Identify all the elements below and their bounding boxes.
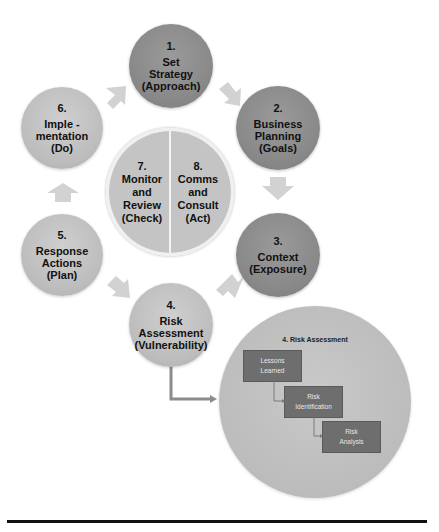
bottom-rule bbox=[7, 520, 427, 523]
step-label-line: (Plan) bbox=[36, 269, 89, 281]
step-label-line: Context bbox=[249, 251, 306, 263]
step-label-line: Monitor bbox=[122, 173, 162, 186]
step-label-line: Imple - bbox=[36, 118, 89, 130]
arrow-icon bbox=[47, 183, 79, 202]
step-label-line: Planning bbox=[254, 130, 303, 142]
step-label-line: (Act) bbox=[185, 212, 210, 225]
connector-arrowhead-icon bbox=[282, 399, 285, 403]
step-number: 5. bbox=[36, 229, 89, 241]
step-6-implementation: 6. Imple - mentation (Do) bbox=[21, 87, 103, 169]
step-label-line: Risk bbox=[135, 315, 208, 327]
arrow-icon bbox=[106, 86, 126, 109]
step-label-line: (Exposure) bbox=[249, 263, 306, 275]
step-label-line: Set bbox=[142, 56, 201, 68]
connector-arrowhead-icon bbox=[320, 434, 323, 438]
step-2-business-planning: 2. Business Planning (Goals) bbox=[236, 86, 320, 170]
arrow-icon bbox=[219, 82, 241, 106]
step-label-line: Consult bbox=[178, 199, 219, 212]
step-label-line: (Vulnerability) bbox=[135, 339, 208, 351]
connector-arrow bbox=[171, 364, 210, 399]
step-label-line: (Approach) bbox=[142, 80, 201, 92]
center-circle: 7. Monitor and Review (Check) 8. Comms a… bbox=[106, 128, 234, 256]
step-number: 2. bbox=[254, 102, 303, 114]
step-number: 6. bbox=[36, 102, 89, 114]
step-4-risk-assessment: 4. Risk Assessment (Vulnerability) bbox=[129, 283, 213, 367]
arrow-icon bbox=[107, 276, 130, 298]
risk-assessment-detail-circle: 4. Risk Assessment Lessons Learned Risk … bbox=[219, 306, 411, 498]
step-number: 4. bbox=[135, 299, 208, 311]
step-number: 1. bbox=[142, 40, 201, 52]
step-label-line: (Goals) bbox=[254, 142, 303, 154]
step-label-line: Strategy bbox=[142, 68, 201, 80]
step-label-line: and bbox=[188, 186, 208, 199]
step-number: 7. bbox=[137, 160, 146, 173]
step-label-line: Business bbox=[254, 118, 303, 130]
step-label-line: mentation bbox=[36, 130, 89, 142]
arrow-icon bbox=[262, 177, 294, 200]
step-1-set-strategy: 1. Set Strategy (Approach) bbox=[129, 24, 213, 108]
step-number: 3. bbox=[249, 235, 306, 247]
step-label-line: Actions bbox=[36, 257, 89, 269]
arrow-icon bbox=[216, 274, 244, 298]
step-label-line: Review bbox=[123, 199, 161, 212]
step-label-line: (Check) bbox=[122, 212, 162, 225]
step-label-line: (Do) bbox=[36, 142, 89, 154]
step-label-line: Assessment bbox=[135, 327, 208, 339]
step-label-line: and bbox=[132, 186, 152, 199]
step-label-line: Response bbox=[36, 245, 89, 257]
step-label-line: Comms bbox=[178, 173, 218, 186]
connector-arrowhead-icon bbox=[210, 395, 217, 403]
step-3-context: 3. Context (Exposure) bbox=[236, 213, 320, 297]
detail-connectors bbox=[219, 306, 411, 498]
step-5-response-actions: 5. Response Actions (Plan) bbox=[21, 214, 103, 296]
step-number: 8. bbox=[193, 160, 202, 173]
